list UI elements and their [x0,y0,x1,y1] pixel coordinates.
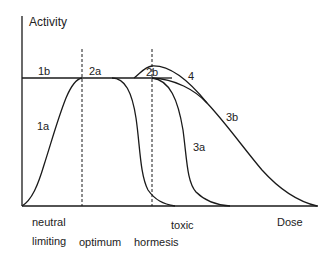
label-3b: 3b [226,112,238,123]
zone-optimum-label: optimum [79,237,121,248]
curve-1a [22,78,82,206]
y-axis-label: Activity [29,16,67,28]
zone-neutral-label: neutral [32,217,66,228]
zone-limiting-label: limiting [32,236,66,247]
label-2b: 2b [146,67,158,78]
label-1a: 1a [37,121,49,132]
label-4: 4 [188,71,194,82]
zone-toxic-label: toxic [171,220,194,231]
curve-3b [152,78,317,206]
label-1b: 1b [38,66,50,77]
curve-3a [152,78,230,206]
x-axis-label: Dose [277,217,303,228]
zone-hormesis-label: hormesis [134,237,179,248]
label-3a: 3a [193,142,205,153]
curve-4 [134,66,207,103]
curve-2a [112,78,175,206]
label-2a: 2a [89,66,101,77]
